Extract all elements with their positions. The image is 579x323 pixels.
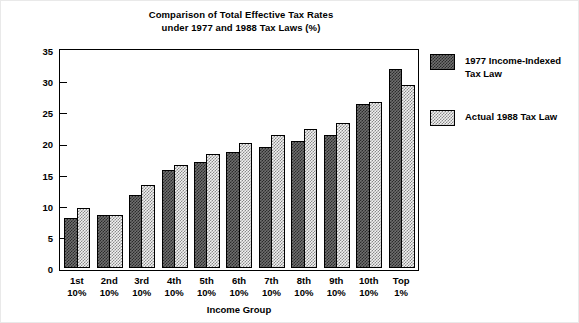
chart-title-line-2: under 1977 and 1988 Tax Laws (%) [91,22,391,35]
bar-group [259,52,286,269]
bar-series-container [62,52,417,269]
x-axis-title: Income Group [59,304,419,315]
bar-group [162,52,189,269]
bar-group [194,52,221,269]
bar-group [129,52,156,269]
bar-1988 [206,154,220,268]
y-axis-tick-label: 20 [42,139,53,150]
legend-label-1988-line-1: Actual 1988 Tax Law [465,111,557,124]
legend-swatch-1977-icon [430,54,455,70]
bar-group [64,52,91,269]
chart-figure: Comparison of Total Effective Tax Rates … [0,0,579,323]
x-axis-tick-labels: 1st 10%2nd 10%3rd 10%4th 10%5th 10%6th 1… [59,275,419,303]
bar-group [226,52,253,269]
x-axis-tick-label: Top 1% [379,275,423,299]
bar-1988 [401,85,415,268]
bar-group [324,52,351,269]
bar-group [97,52,124,269]
legend-swatch-1988-icon [430,110,455,126]
bar-group [291,52,318,269]
bar-group [356,52,383,269]
y-axis-tick-label: 30 [42,76,53,87]
y-axis-tick-label: 35 [42,45,53,56]
bar-1988 [239,143,253,268]
bar-1988 [271,135,285,268]
bar-1988 [369,102,383,269]
legend-item-1977: 1977 Income-Indexed Tax Law [430,54,576,80]
y-axis-tick-label: 0 [48,264,53,275]
y-axis-tick-label: 15 [42,170,53,181]
chart-title: Comparison of Total Effective Tax Rates … [91,9,391,34]
legend-item-1988: Actual 1988 Tax Law [430,110,576,126]
bar-1988 [77,208,91,268]
bar-1988 [174,165,188,268]
y-axis-tick-label: 5 [48,233,53,244]
bar-1988 [336,123,350,268]
legend-label-1988: Actual 1988 Tax Law [465,111,557,124]
chart-title-line-1: Comparison of Total Effective Tax Rates [91,9,391,22]
legend-label-1977-line-2: Tax Law [465,68,561,81]
legend-label-1977: 1977 Income-Indexed Tax Law [465,55,561,80]
bar-group [389,52,416,269]
legend-label-1977-line-1: 1977 Income-Indexed [465,55,561,68]
plot-area [59,49,419,271]
chart-legend: 1977 Income-Indexed Tax Law Actual 1988 … [430,54,576,156]
y-axis-tick-label: 25 [42,108,53,119]
y-axis-tick-label: 10 [42,201,53,212]
bar-1988 [141,185,155,269]
bar-1988 [304,129,318,268]
y-axis-tick-labels: 05101520253035 [19,49,53,271]
bar-1988 [109,215,123,268]
